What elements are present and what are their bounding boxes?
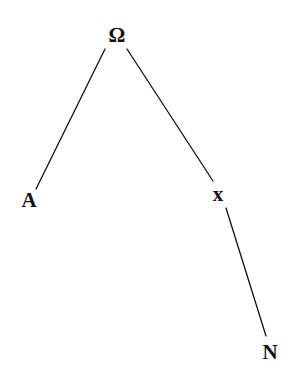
node-x: x — [213, 184, 224, 205]
tree-edges — [0, 0, 303, 385]
node-root-omega: Ω — [109, 25, 126, 46]
edge-root-to-a — [36, 49, 105, 189]
edge-x-to-n — [226, 208, 266, 336]
node-n: N — [262, 342, 277, 363]
node-a: A — [21, 190, 36, 211]
tree-diagram: Ω A x N — [0, 0, 303, 385]
edge-root-to-x — [127, 49, 213, 181]
